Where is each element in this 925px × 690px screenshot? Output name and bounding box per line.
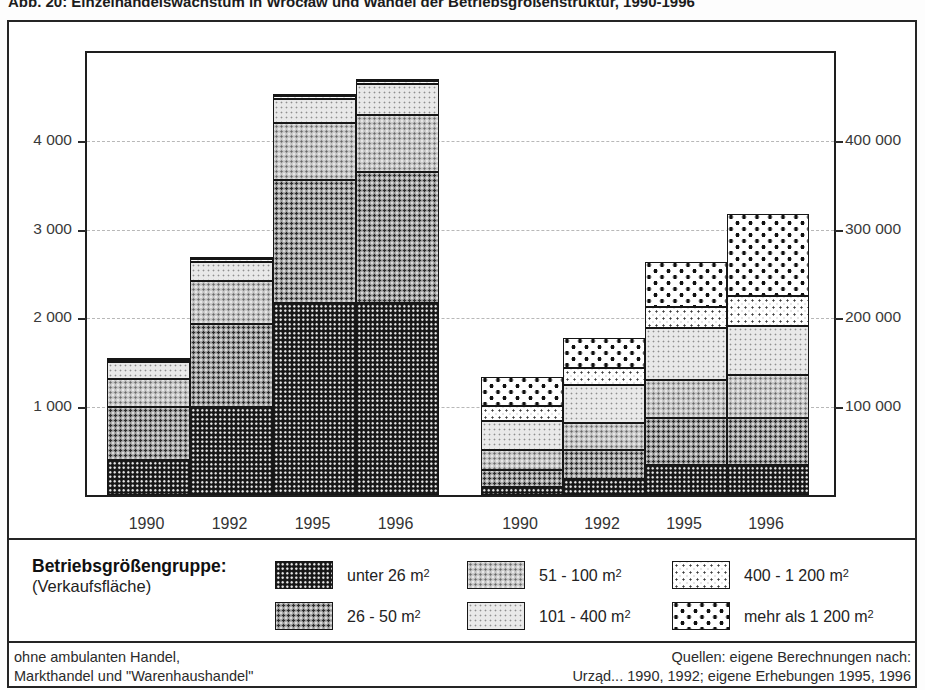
bar-segment bbox=[190, 407, 273, 495]
bar-segment bbox=[481, 487, 563, 495]
legend-swatch bbox=[467, 561, 525, 589]
bar-segment bbox=[107, 362, 190, 379]
left-axis-label: 2 000 bbox=[33, 308, 72, 326]
right-axis-label: 400 000 bbox=[845, 131, 901, 149]
bar-segment bbox=[273, 96, 356, 99]
bar-segment bbox=[273, 180, 356, 303]
legend-swatch bbox=[275, 602, 333, 630]
x-axis-label: 1996 bbox=[378, 515, 414, 533]
bar-segment bbox=[727, 326, 809, 375]
bar-segment bbox=[727, 214, 809, 296]
legend-label: 51 - 100 m2 bbox=[539, 567, 622, 585]
footer-divider bbox=[9, 641, 915, 643]
legend-swatch bbox=[467, 602, 525, 630]
bar-segment bbox=[481, 470, 563, 487]
left-axis-tick bbox=[78, 318, 86, 320]
left-axis-label: 1 000 bbox=[33, 397, 72, 415]
legend-swatch bbox=[672, 602, 730, 630]
bar-segment bbox=[273, 94, 356, 96]
bar-segment bbox=[481, 421, 563, 450]
bar-segment bbox=[190, 259, 273, 262]
bar-segment bbox=[727, 465, 809, 495]
bar-segment bbox=[190, 281, 273, 324]
right-axis-tick bbox=[835, 141, 843, 143]
bar-segment bbox=[107, 360, 190, 362]
bar-segment bbox=[645, 328, 727, 380]
gridline bbox=[87, 141, 834, 142]
x-axis-label: 1995 bbox=[295, 515, 331, 533]
bar-segment bbox=[727, 375, 809, 418]
right-axis-label: 200 000 bbox=[845, 308, 901, 326]
bar-segment bbox=[107, 460, 190, 495]
bar-segment bbox=[645, 380, 727, 418]
x-axis-label: 1990 bbox=[502, 515, 538, 533]
legend-label: 400 - 1 200 m2 bbox=[744, 567, 849, 585]
bar-segment bbox=[273, 303, 356, 495]
legend-label: 26 - 50 m2 bbox=[347, 608, 421, 626]
footnote-left: ohne ambulanten Handel, Markthandel und … bbox=[14, 648, 254, 686]
bar-segment bbox=[273, 99, 356, 123]
bar-segment bbox=[356, 172, 439, 303]
legend-swatch bbox=[672, 561, 730, 589]
left-axis-tick bbox=[78, 141, 86, 143]
bar-segment bbox=[481, 450, 563, 470]
bar-segment bbox=[645, 465, 727, 495]
left-axis-label: 3 000 bbox=[33, 220, 72, 238]
bar-segment bbox=[356, 303, 439, 495]
right-axis-label: 300 000 bbox=[845, 220, 901, 238]
bar-segment bbox=[563, 368, 645, 385]
bar-segment bbox=[356, 79, 439, 81]
bar-segment bbox=[356, 84, 439, 115]
right-axis-tick bbox=[835, 230, 843, 232]
bar-segment bbox=[563, 479, 645, 495]
bar-segment bbox=[107, 379, 190, 407]
x-axis-label: 1996 bbox=[748, 515, 784, 533]
right-axis-tick bbox=[835, 318, 843, 320]
figure-canvas: { "title": "Abb. 20: Einzelhandelswachst… bbox=[0, 0, 925, 690]
right-axis-label: 100 000 bbox=[845, 397, 901, 415]
footnote-sources-line1: Quellen: eigene Berechnungen nach: bbox=[572, 648, 911, 667]
legend-label: unter 26 m2 bbox=[347, 567, 430, 585]
bar-segment bbox=[190, 262, 273, 281]
figure-title: Abb. 20: Einzelhandelswachstum in Wrocła… bbox=[8, 0, 920, 10]
bar-segment bbox=[563, 385, 645, 423]
left-axis-tick bbox=[78, 230, 86, 232]
legend-title: Betriebsgrößengruppe: bbox=[32, 556, 226, 577]
legend-subtitle: (Verkaufsfläche) bbox=[32, 577, 151, 596]
bar-segment bbox=[190, 324, 273, 407]
plot-area bbox=[85, 51, 836, 497]
x-axis-label: 1992 bbox=[212, 515, 248, 533]
left-axis-label: 4 000 bbox=[33, 131, 72, 149]
bar-segment bbox=[727, 296, 809, 326]
bar-segment bbox=[645, 262, 727, 307]
gridline bbox=[87, 230, 834, 231]
legend-divider bbox=[9, 538, 915, 540]
left-axis-tick bbox=[78, 407, 86, 409]
legend-swatch bbox=[275, 561, 333, 589]
bar-segment bbox=[107, 407, 190, 460]
bar-segment bbox=[563, 450, 645, 479]
bar-segment bbox=[563, 338, 645, 368]
bar-segment bbox=[727, 418, 809, 465]
bar-segment bbox=[356, 115, 439, 172]
footnote-left-line1: ohne ambulanten Handel, bbox=[14, 648, 254, 667]
bar-segment bbox=[356, 81, 439, 84]
right-axis-tick bbox=[835, 407, 843, 409]
chart-frame: Anzahl Geschäfte Verkaufsfläche in m2 Be… bbox=[7, 20, 917, 688]
legend-label: 101 - 400 m2 bbox=[539, 608, 631, 626]
footnote-left-line2: Markthandel und "Warenhaushandel" bbox=[14, 667, 254, 686]
bar-segment bbox=[273, 123, 356, 180]
bar-segment bbox=[481, 377, 563, 406]
bar-segment bbox=[563, 423, 645, 450]
bar-segment bbox=[481, 406, 563, 421]
bar-segment bbox=[645, 418, 727, 465]
footnote-sources-line2: Urząd... 1990, 1992; eigene Erhebungen 1… bbox=[572, 667, 911, 686]
legend-label: mehr als 1 200 m2 bbox=[744, 608, 874, 626]
bar-segment bbox=[107, 358, 190, 360]
footnote-sources: Quellen: eigene Berechnungen nach: Urząd… bbox=[572, 648, 911, 686]
x-axis-label: 1992 bbox=[584, 515, 620, 533]
bar-segment bbox=[645, 307, 727, 328]
x-axis-label: 1995 bbox=[666, 515, 702, 533]
x-axis-label: 1990 bbox=[129, 515, 165, 533]
bar-segment bbox=[190, 257, 273, 259]
